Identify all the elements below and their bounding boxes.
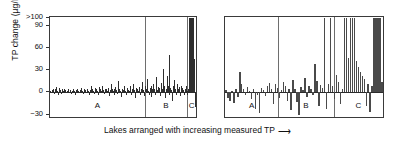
- bar: [298, 92, 299, 114]
- x-axis-label: Lakes arranged with increasing measured …: [0, 125, 395, 136]
- bar: [367, 84, 368, 93]
- bar: [279, 92, 280, 97]
- bar: [140, 92, 141, 95]
- bar: [312, 92, 313, 95]
- bar: [364, 79, 365, 92]
- chart-root: TP change (µg/L) >1009060300−30 ABC ABC …: [0, 0, 395, 145]
- bar: [83, 92, 84, 93]
- bar: [61, 92, 62, 93]
- y-axis-ticks: >1009060300−30: [0, 0, 49, 145]
- bar: [66, 92, 67, 93]
- bar: [184, 92, 185, 95]
- y-tick-label: 90: [35, 21, 43, 29]
- bar: [316, 81, 317, 92]
- right-panel-bars: ABC: [225, 17, 383, 117]
- bar: [155, 92, 156, 95]
- section-label-a: A: [87, 101, 107, 110]
- bar: [326, 92, 327, 108]
- bar: [165, 92, 166, 97]
- bar: [194, 59, 195, 92]
- bar: [89, 92, 90, 95]
- bar: [180, 92, 181, 96]
- bar: [79, 92, 80, 93]
- bar: [151, 86, 152, 93]
- bar: [318, 92, 319, 105]
- bar: [131, 92, 132, 94]
- zero-line: [50, 92, 196, 93]
- bar: [51, 92, 52, 93]
- bar: [135, 92, 136, 98]
- bar: [58, 92, 59, 94]
- bar: [251, 92, 252, 99]
- bar: [121, 92, 122, 96]
- bar: [126, 92, 127, 95]
- bar: [304, 78, 305, 93]
- bar: [144, 92, 145, 96]
- y-tick-label: 60: [35, 43, 43, 51]
- y-tick-label: −30: [30, 110, 43, 118]
- bar: [245, 92, 246, 94]
- bar: [233, 92, 234, 102]
- bar: [287, 92, 288, 100]
- bar: [169, 92, 170, 95]
- bar: [104, 92, 105, 93]
- arrow-right-icon: ⟶: [278, 126, 291, 136]
- bar: [265, 92, 266, 96]
- bar: [259, 92, 260, 113]
- section-divider: [334, 17, 335, 117]
- bar: [338, 82, 339, 92]
- bar: [117, 92, 118, 93]
- bar: [54, 92, 55, 93]
- bar: [273, 92, 274, 104]
- bar: [114, 92, 115, 94]
- section-divider: [145, 17, 146, 117]
- bar: [149, 92, 150, 94]
- bar: [369, 92, 370, 111]
- x-axis-label-text: Lakes arranged with increasing measured …: [104, 125, 275, 135]
- bar: [169, 55, 170, 93]
- bar: [330, 18, 331, 92]
- bar: [340, 92, 341, 104]
- zero-line: [225, 92, 383, 93]
- bar: [98, 92, 99, 94]
- bar: [237, 92, 238, 96]
- section-divider: [278, 17, 279, 117]
- right-panel: ABC: [224, 16, 384, 118]
- bar: [109, 92, 110, 96]
- bar: [71, 92, 72, 93]
- bar: [381, 82, 382, 92]
- y-tick-label: 0: [39, 87, 43, 95]
- left-panel: ABC: [49, 16, 197, 118]
- bar: [195, 92, 196, 107]
- bar: [290, 92, 291, 110]
- bar: [151, 92, 152, 96]
- bar: [94, 92, 95, 93]
- y-tick-label: 30: [35, 65, 43, 73]
- bar: [160, 92, 161, 96]
- bar: [306, 92, 307, 96]
- bar: [176, 92, 177, 94]
- bar: [75, 92, 76, 94]
- bar: [324, 18, 325, 92]
- bar: [334, 92, 335, 99]
- bar: [229, 92, 230, 101]
- left-panel-bars: ABC: [50, 17, 196, 117]
- bar: [172, 92, 173, 101]
- bar: [168, 86, 169, 93]
- bar: [187, 92, 188, 94]
- bar: [130, 86, 131, 93]
- bar: [366, 92, 367, 106]
- section-label-b: B: [156, 101, 176, 110]
